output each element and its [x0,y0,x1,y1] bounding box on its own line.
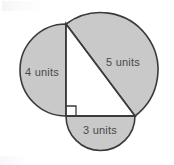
figure-canvas: 4 units 5 units 3 units [0,0,174,165]
label-horizontal-leg: 3 units [83,124,117,136]
label-vertical-leg: 4 units [25,66,59,78]
geometry-figure: 4 units 5 units 3 units [0,0,174,165]
label-hypotenuse: 5 units [106,56,140,68]
